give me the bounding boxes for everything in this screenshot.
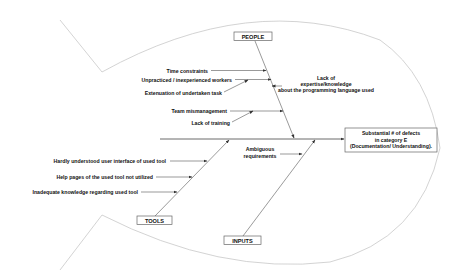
category-inputs-label: INPUTS [232, 238, 253, 244]
fishbone-diagram: Substantial # of defects in category E (… [0, 0, 456, 277]
category-tools: TOOLS Hardly understood user interface o… [33, 140, 230, 225]
effect-line-1: Substantial # of defects [362, 130, 420, 136]
people-cause-3: Extenuation of undertaken task [145, 90, 222, 96]
inputs-cause-1-line-2: requirements [244, 153, 277, 159]
category-tools-label: TOOLS [145, 218, 164, 224]
people-side-cause-line-3: about the programming language used [278, 87, 374, 93]
tools-cause-3: Inadequate knowledge regarding used tool [33, 189, 139, 195]
people-cause-2: Unpracticed / inexperienced workers [141, 77, 232, 83]
fish-body-bottom-arc [102, 148, 440, 264]
fish-tail-bottom [60, 215, 102, 270]
people-cause-4: Team mismanagement [171, 108, 227, 114]
tools-cause-2: Help pages of the used tool not utilized [56, 174, 153, 180]
tools-bone [155, 140, 229, 216]
tools-cause-1: Hardly understood user interface of used… [54, 158, 167, 164]
effect-box: Substantial # of defects in category E (… [345, 128, 437, 152]
category-inputs: INPUTS Ambiguous requirements [224, 140, 315, 245]
category-people-label: PEOPLE [242, 34, 265, 40]
effect-line-2: in category E [375, 137, 408, 143]
category-people: PEOPLE Time constraints Unpracticed / in… [141, 32, 374, 138]
inputs-cause-1-line-1: Ambiguous [246, 146, 275, 152]
people-cause-5: Lack of training [191, 120, 230, 126]
fish-tail-top [60, 20, 102, 72]
effect-line-3: (Documentation/ Understanding). [350, 143, 433, 149]
people-cause-5-arrow [232, 111, 253, 122]
people-cause-1: Time constraints [167, 68, 209, 74]
